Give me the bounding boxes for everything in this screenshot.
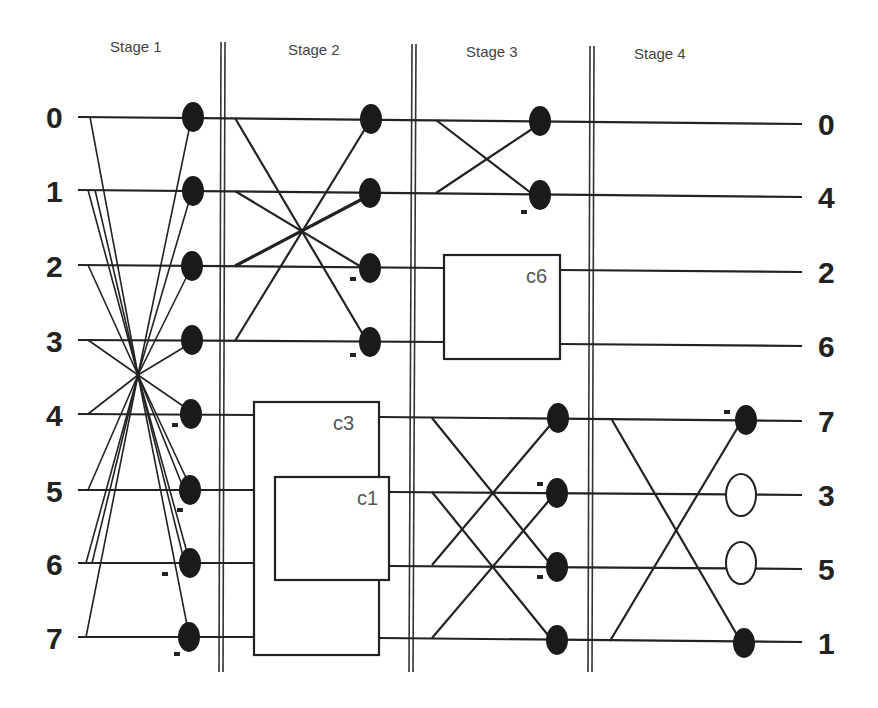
box-c6-label: c6 xyxy=(526,265,547,287)
minus-s3-1 xyxy=(521,210,527,214)
node-s1-7 xyxy=(178,622,200,652)
stage-1-title: Stage 1 xyxy=(110,38,162,55)
input-label-1: 1 xyxy=(46,175,63,208)
stage-2-crossings xyxy=(235,118,368,343)
node-s4-5-open xyxy=(726,474,756,516)
butterfly-diagram: Stage 1 Stage 2 Stage 3 Stage 4 0 1 2 3 … xyxy=(0,0,878,708)
input-label-7: 7 xyxy=(46,622,63,655)
stage-4-nodes xyxy=(726,405,757,658)
box-c6: c6 xyxy=(444,255,560,359)
stage-2-nodes xyxy=(359,104,382,357)
node-s3-1 xyxy=(529,180,551,210)
output-label-3: 6 xyxy=(818,330,835,363)
stage-divider-1 xyxy=(219,42,225,672)
minus-s3-5 xyxy=(537,482,543,486)
minus-s3-6 xyxy=(537,575,543,579)
minus-s1-4 xyxy=(172,423,178,427)
node-s1-1 xyxy=(182,176,204,206)
output-label-2: 2 xyxy=(818,256,835,289)
node-s3-0 xyxy=(529,106,551,136)
stage-4-crossings xyxy=(610,420,740,641)
minus-s1-7 xyxy=(174,652,180,656)
box-c1-label: c1 xyxy=(357,487,378,509)
stage-3-nodes xyxy=(529,106,569,655)
node-s1-5 xyxy=(179,475,201,505)
minus-s2-2 xyxy=(350,277,356,281)
minus-s1-5 xyxy=(177,508,183,512)
node-s4-7 xyxy=(733,628,755,658)
minus-s4-4 xyxy=(724,410,730,414)
stage-3-title: Stage 3 xyxy=(466,43,518,60)
input-label-3: 3 xyxy=(46,325,63,358)
node-s3-4 xyxy=(547,403,569,433)
stage-divider-2 xyxy=(409,44,416,672)
input-label-4: 4 xyxy=(46,399,63,432)
node-s1-4 xyxy=(180,399,202,429)
minus-s2-3 xyxy=(350,353,356,357)
stage-4-title: Stage 4 xyxy=(634,45,686,62)
output-label-6: 5 xyxy=(818,553,835,586)
input-label-5: 5 xyxy=(46,475,63,508)
node-s4-4 xyxy=(735,405,757,435)
output-label-1: 4 xyxy=(818,181,835,214)
minus-s1-6 xyxy=(162,572,168,576)
box-c1: c1 xyxy=(275,477,389,580)
stage-2-title: Stage 2 xyxy=(288,41,340,58)
input-label-2: 2 xyxy=(46,250,63,283)
node-s2-3 xyxy=(359,327,381,357)
node-s1-3 xyxy=(181,325,203,355)
node-s2-2 xyxy=(359,253,381,283)
output-label-4: 7 xyxy=(818,405,835,438)
node-s1-6 xyxy=(179,548,201,578)
node-s4-6-open xyxy=(726,542,756,584)
node-s3-6 xyxy=(546,552,568,582)
input-label-6: 6 xyxy=(46,548,63,581)
output-label-5: 3 xyxy=(818,479,835,512)
node-s3-7 xyxy=(546,625,568,655)
node-s3-5 xyxy=(546,478,568,508)
box-c3-label: c3 xyxy=(333,412,354,434)
node-s1-0 xyxy=(182,102,204,132)
output-label-7: 1 xyxy=(818,627,835,660)
node-s1-2 xyxy=(181,251,203,281)
node-s2-0 xyxy=(360,104,382,134)
node-s2-1 xyxy=(359,178,381,208)
output-label-0: 0 xyxy=(818,108,835,141)
stage-1-crossings xyxy=(86,117,190,637)
stage-1-nodes xyxy=(178,102,204,652)
input-label-0: 0 xyxy=(46,101,63,134)
stage-divider-3 xyxy=(588,46,594,672)
